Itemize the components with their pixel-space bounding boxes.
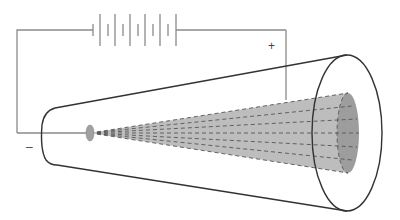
- cathode: [86, 125, 94, 141]
- electron-beam: [90, 93, 359, 173]
- positive-terminal-label: +: [268, 40, 275, 52]
- crt-diagram: + –: [0, 0, 400, 220]
- negative-terminal-label: –: [26, 141, 33, 153]
- battery-icon: [93, 14, 176, 46]
- diagram-canvas: [0, 0, 400, 220]
